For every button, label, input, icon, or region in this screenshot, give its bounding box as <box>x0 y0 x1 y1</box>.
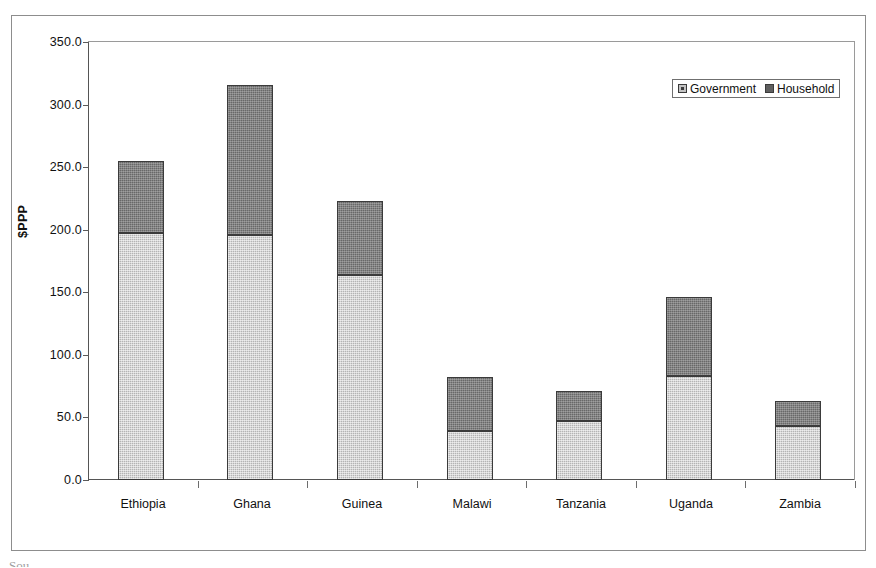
bar-group <box>556 42 602 480</box>
bar-segment-government <box>775 426 821 480</box>
bar-segment-household <box>337 201 383 275</box>
bar-segment-household <box>118 161 164 234</box>
y-tick-label: 100.0 <box>8 348 82 362</box>
y-tick-mark <box>83 42 89 43</box>
x-tick-mark <box>307 481 308 488</box>
y-axis: 350.0300.0250.0200.0150.0100.050.00.0 <box>0 0 82 568</box>
y-tick-mark <box>83 105 89 106</box>
y-tick-label: 250.0 <box>8 160 82 174</box>
y-tick-mark <box>83 167 89 168</box>
x-tick-mark <box>526 481 527 488</box>
x-tick-mark <box>198 481 199 488</box>
y-tick-mark <box>83 355 89 356</box>
scan-artifact-text: Sou <box>9 556 29 567</box>
x-tick-mark <box>636 481 637 488</box>
x-tick-label: Malawi <box>412 497 532 511</box>
x-tick-label: Ghana <box>192 497 312 511</box>
bar-group <box>447 42 493 480</box>
stacked-bar-chart: $PPP 350.0300.0250.0200.0150.0100.050.00… <box>0 0 876 568</box>
bar-group <box>118 42 164 480</box>
y-tick-label: 150.0 <box>8 285 82 299</box>
x-tick-label: Ethiopia <box>83 497 203 511</box>
bar-segment-government <box>447 431 493 480</box>
x-tick-label: Uganda <box>631 497 751 511</box>
y-tick-mark <box>83 480 89 481</box>
x-tick-mark <box>745 481 746 488</box>
legend-label: Household <box>777 82 834 96</box>
x-tick-mark <box>855 481 856 488</box>
bar-segment-government <box>337 275 383 480</box>
chart-legend: GovernmentHousehold <box>672 79 840 98</box>
bar-segment-government <box>666 376 712 480</box>
bar-group <box>666 42 712 480</box>
household-swatch <box>765 84 774 93</box>
bar-segment-government <box>118 233 164 480</box>
y-tick-mark <box>83 417 89 418</box>
x-tick-label: Zambia <box>740 497 860 511</box>
y-tick-label: 350.0 <box>8 35 82 49</box>
bar-segment-household <box>447 377 493 431</box>
plot-right-border <box>854 42 855 480</box>
y-tick-label: 50.0 <box>8 410 82 424</box>
bar-segment-household <box>227 85 273 235</box>
legend-entry: Government <box>678 82 756 96</box>
legend-entry: Household <box>765 82 834 96</box>
legend-label: Government <box>690 82 756 96</box>
y-tick-mark <box>83 230 89 231</box>
y-tick-label: 300.0 <box>8 98 82 112</box>
y-tick-mark <box>83 292 89 293</box>
y-tick-label: 0.0 <box>8 473 82 487</box>
government-swatch <box>678 84 687 93</box>
x-tick-label: Guinea <box>302 497 422 511</box>
bar-segment-government <box>556 421 602 480</box>
y-tick-label: 200.0 <box>8 223 82 237</box>
bar-segment-household <box>775 401 821 426</box>
bar-group <box>227 42 273 480</box>
x-tick-label: Tanzania <box>521 497 641 511</box>
x-tick-mark <box>417 481 418 488</box>
bar-segment-government <box>227 235 273 480</box>
bar-segment-household <box>556 391 602 421</box>
bar-group <box>775 42 821 480</box>
bar-group <box>337 42 383 480</box>
bar-segment-household <box>666 297 712 376</box>
